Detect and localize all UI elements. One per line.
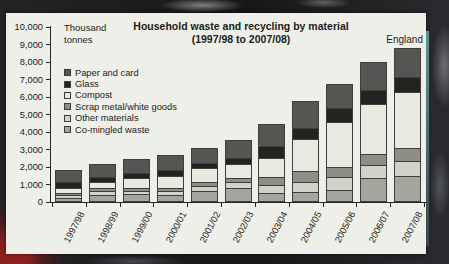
y-tick-label: 1,000 [7, 180, 43, 190]
legend-label: Paper and card [75, 68, 139, 78]
x-category-label: 2006/07 [367, 210, 392, 244]
bar-segment [361, 154, 386, 166]
bar-segment [259, 177, 284, 185]
y-axis-unit-label: Thousand tonnes [64, 22, 106, 45]
stacked-bar-2007-08 [394, 48, 421, 202]
legend-item: Scrap metal/white goods [64, 101, 177, 112]
bar-segment [293, 139, 318, 171]
bar-segment [361, 63, 386, 89]
y-tick-label: 5,000 [7, 110, 43, 120]
bar-segment [259, 158, 284, 176]
x-category-label: 2001/02 [197, 210, 222, 244]
legend-label: Co-mingled waste [75, 125, 149, 135]
legend-swatch-icon [64, 92, 71, 99]
bar-segment [395, 148, 420, 161]
stacked-bar-2001-02 [191, 148, 218, 203]
bar-segment [361, 104, 386, 154]
bar-segment [293, 182, 318, 192]
bar-segment [158, 156, 183, 169]
bar-segment [293, 128, 318, 139]
bar-segment [327, 190, 352, 201]
y-tick-label: 8,000 [7, 57, 43, 67]
bar-segment [158, 176, 183, 187]
chart-title-line2: (1997/98 to 2007/08) [126, 33, 356, 46]
bar-segment [293, 192, 318, 201]
bar-segment [259, 193, 284, 201]
bar-segment [361, 165, 386, 178]
legend-label: Scrap metal/white goods [75, 102, 177, 112]
legend-swatch-icon [64, 69, 71, 76]
y-tick-mark [46, 97, 50, 98]
x-tick-mark [120, 203, 121, 207]
x-category-label: 2000/01 [164, 210, 189, 244]
y-tick-mark [46, 62, 50, 63]
bar-segment [395, 176, 420, 201]
legend-item: Paper and card [64, 67, 177, 78]
region-label: England [386, 34, 423, 45]
stacked-bar-2000-01 [157, 155, 184, 202]
bar-segment [226, 164, 251, 178]
y-tick-mark [46, 149, 50, 150]
stacked-bar-1999-00 [123, 159, 150, 202]
legend-swatch-icon [64, 115, 71, 122]
bar-segment [226, 188, 251, 201]
bar-segment [56, 198, 81, 201]
x-tick-mark [323, 203, 324, 207]
x-tick-mark [153, 203, 154, 207]
x-tick-mark [390, 203, 391, 207]
y-tick-mark [46, 167, 50, 168]
x-tick-mark [187, 203, 188, 207]
x-category-label: 2005/06 [333, 210, 358, 244]
legend-item: Co-mingled waste [64, 124, 177, 135]
y-tick-label: 2,000 [7, 162, 43, 172]
legend-label: Other materials [75, 113, 139, 123]
bar-segment [327, 167, 352, 177]
bar-segment [361, 178, 386, 201]
bar-segment [158, 195, 183, 201]
bar-segment [90, 165, 115, 177]
stacked-bar-2006-07 [360, 62, 387, 202]
y-axis-unit-line1: Thousand [64, 22, 106, 34]
y-tick-mark [46, 79, 50, 80]
x-category-label: 1998/99 [96, 210, 121, 244]
legend-label: Glass [75, 79, 99, 89]
x-category-label: 1999/00 [130, 210, 155, 244]
stacked-bar-2005-06 [326, 84, 353, 202]
bar-segment [124, 160, 149, 173]
y-axis-unit-line2: tonnes [64, 34, 106, 46]
x-category-label: 2002/03 [231, 210, 256, 244]
bar-segment [259, 146, 284, 159]
bar-segment [395, 92, 420, 148]
y-tick-mark [46, 184, 50, 185]
x-category-label: 1997/98 [62, 210, 87, 244]
bar-segment [259, 185, 284, 193]
stacked-bar-1997-98 [55, 170, 82, 202]
y-tick-label: 0 [7, 197, 43, 207]
bar-segment [192, 149, 217, 163]
legend-swatch-icon [64, 103, 71, 110]
chart-title-line1: Household waste and recycling by materia… [126, 20, 356, 33]
y-tick-label: 9,000 [7, 40, 43, 50]
x-tick-mark [424, 203, 425, 207]
legend-label: Compost [75, 90, 112, 100]
stacked-bar-2003-04 [258, 124, 285, 202]
stacked-bar-2002-03 [225, 140, 252, 202]
x-category-label: 2004/05 [299, 210, 324, 244]
x-tick-mark [52, 203, 53, 207]
x-category-label: 2003/04 [265, 210, 290, 244]
y-tick-label: 6,000 [7, 92, 43, 102]
y-tick-mark [46, 114, 50, 115]
x-tick-mark [356, 203, 357, 207]
stacked-bar-2004-05 [292, 101, 319, 202]
legend-swatch-icon [64, 126, 71, 133]
y-axis-line [50, 26, 51, 203]
stacked-bar-1998-99 [89, 164, 116, 202]
legend-item: Glass [64, 78, 177, 89]
bar-segment [90, 195, 115, 201]
bar-segment [395, 161, 420, 176]
bar-segment [56, 171, 81, 183]
y-tick-mark [46, 27, 50, 28]
bar-segment [124, 194, 149, 201]
bar-segment [158, 170, 183, 177]
bar-segment [259, 125, 284, 145]
